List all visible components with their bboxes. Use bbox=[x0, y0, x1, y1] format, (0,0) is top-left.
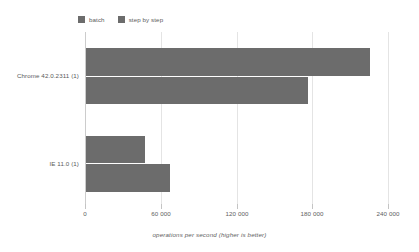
legend-label-batch: batch bbox=[89, 16, 105, 23]
legend-label-step-by-step: step by step bbox=[129, 16, 164, 23]
chart-legend: batch step by step bbox=[78, 14, 163, 25]
bar-ie-batch[interactable] bbox=[85, 136, 145, 163]
y-axis-line bbox=[85, 32, 86, 205]
bar-chrome-batch[interactable] bbox=[85, 48, 370, 76]
category-label-chrome: Chrome 42.0.2311 (1) bbox=[0, 72, 79, 80]
legend-swatch-batch bbox=[78, 16, 85, 23]
xtick-label-60000: 60 000 bbox=[151, 210, 171, 218]
legend-item-step-by-step[interactable]: step by step bbox=[118, 16, 164, 23]
gridline-240000 bbox=[388, 32, 389, 204]
plot-area bbox=[85, 32, 388, 204]
bar-ie-step-by-step[interactable] bbox=[85, 164, 170, 192]
xtick-label-240000: 240 000 bbox=[376, 210, 399, 218]
tickmark-120000 bbox=[237, 204, 238, 209]
legend-swatch-step-by-step bbox=[118, 16, 125, 23]
bar-chart: batch step by step Chrome 42.0.2311 (1) … bbox=[0, 0, 419, 252]
bar-chrome-step-by-step[interactable] bbox=[85, 77, 308, 104]
xtick-label-180000: 180 000 bbox=[300, 210, 323, 218]
tickmark-180000 bbox=[312, 204, 313, 209]
tickmark-60000 bbox=[161, 204, 162, 209]
category-label-ie: IE 11.0 (1) bbox=[0, 160, 79, 168]
xtick-label-120000: 120 000 bbox=[225, 210, 248, 218]
x-axis-title: operations per second (higher is better) bbox=[0, 231, 419, 238]
xtick-label-0: 0 bbox=[83, 210, 87, 218]
tickmark-240000 bbox=[388, 204, 389, 209]
legend-item-batch[interactable]: batch bbox=[78, 16, 105, 23]
tickmark-0 bbox=[85, 204, 86, 209]
